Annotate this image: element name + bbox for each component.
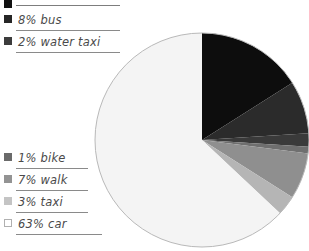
legend-swatch-water-taxi — [4, 37, 12, 45]
legend-label-bike: 1% bike — [18, 151, 66, 165]
legend-underline-subway — [16, 5, 120, 6]
legend-swatch-walk — [4, 175, 12, 183]
legend-label-box-car: 63% car — [18, 213, 67, 234]
legend-swatch-subway — [4, 0, 12, 8]
legend-swatch-taxi — [4, 197, 12, 205]
legend-label-box-taxi: 3% taxi — [18, 191, 63, 212]
legend-underline-water-taxi — [16, 52, 120, 53]
legend-item-subway[interactable] — [0, 0, 100, 8]
legend-label-car: 63% car — [18, 217, 67, 231]
legend-item-water-taxi[interactable]: 2% water taxi — [0, 30, 100, 52]
legend-swatch-car — [4, 219, 12, 227]
legend-label-box-water-taxi: 2% water taxi — [18, 31, 100, 52]
legend-item-taxi[interactable]: 3% taxi — [0, 190, 68, 212]
legend-label-water-taxi: 2% water taxi — [18, 35, 100, 49]
legend-bottom-group: 1% bike 7% walk 3% taxi 63% car — [0, 146, 68, 234]
legend-label-box-bike: 1% bike — [18, 147, 66, 168]
legend-underline-car — [16, 234, 102, 235]
chart-canvas: 8% bus 2% water taxi 1% bike 7% walk — [0, 0, 309, 251]
legend-item-car[interactable]: 63% car — [0, 212, 68, 234]
legend-label-taxi: 3% taxi — [18, 195, 63, 209]
legend-label-walk: 7% walk — [18, 173, 68, 187]
legend-label-box-bus: 8% bus — [18, 9, 62, 30]
legend-item-bike[interactable]: 1% bike — [0, 146, 68, 168]
legend-label-box-walk: 7% walk — [18, 169, 68, 190]
legend-top-group: 8% bus 2% water taxi — [0, 0, 100, 52]
legend-label-bus: 8% bus — [18, 13, 62, 27]
pie-slice-group — [95, 33, 309, 247]
legend-swatch-bus — [4, 15, 12, 23]
legend-item-walk[interactable]: 7% walk — [0, 168, 68, 190]
legend-swatch-bike — [4, 153, 12, 161]
legend-item-bus[interactable]: 8% bus — [0, 8, 100, 30]
